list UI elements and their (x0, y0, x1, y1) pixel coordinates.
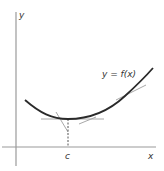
upper-tangent-line (116, 85, 146, 100)
point-c-label: c (65, 151, 70, 161)
function-minimum-diagram: y x y = f(x) c (0, 0, 164, 171)
left-secant-line (56, 112, 68, 132)
x-axis-label: x (147, 151, 154, 161)
curve-label: y = f(x) (101, 69, 136, 79)
y-axis-label: y (18, 10, 25, 20)
